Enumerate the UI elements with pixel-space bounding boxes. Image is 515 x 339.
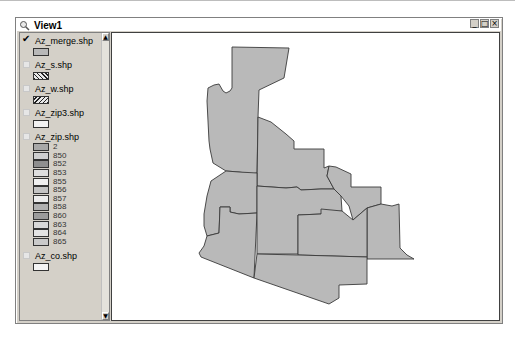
legend-class: 860: [33, 212, 102, 221]
theme-az-merge[interactable]: Az_merge.shp: [20, 35, 102, 56]
theme-name: Az_s.shp: [35, 60, 72, 70]
legend-scrollbar[interactable]: ▲ ▼: [101, 33, 109, 320]
class-swatch: [33, 169, 49, 177]
table-of-contents: Az_merge.shp Az_s.shp Az_w.shp: [19, 32, 110, 321]
arizona-county-map[interactable]: [112, 33, 501, 322]
minimize-button[interactable]: _: [470, 19, 479, 28]
class-swatch: [33, 178, 49, 186]
scroll-down-button[interactable]: ▼: [102, 312, 109, 320]
view-window: View1 _ □ × Az_merge.shp Az_s.shp: [15, 17, 503, 324]
class-swatch: [33, 152, 49, 160]
legend-swatch-hatch: [33, 96, 49, 104]
page-top-rule: [0, 0, 515, 1]
class-swatch: [33, 238, 49, 246]
county-coconino: [257, 117, 334, 190]
class-label: 865: [53, 238, 66, 246]
legend-class: 857: [33, 195, 102, 204]
theme-az-co[interactable]: Az_co.shp: [20, 250, 102, 271]
theme-az-w[interactable]: Az_w.shp: [20, 83, 102, 104]
legend-swatch-solid: [33, 263, 49, 271]
legend-list: Az_merge.shp Az_s.shp Az_w.shp: [20, 33, 102, 274]
class-swatch: [33, 229, 49, 237]
title-bar[interactable]: View1 _ □ ×: [17, 19, 501, 31]
maximize-button[interactable]: □: [480, 19, 489, 28]
class-swatch: [33, 186, 49, 194]
class-swatch: [33, 212, 49, 220]
legend-class: 864: [33, 229, 102, 238]
legend-class: 865: [33, 238, 102, 247]
theme-name: Az_zip.shp: [35, 132, 79, 142]
legend-class: 863: [33, 220, 102, 229]
window-title: View1: [34, 20, 62, 31]
legend-swatch-solid: [33, 120, 49, 128]
theme-az-zip3[interactable]: Az_zip3.shp: [20, 107, 102, 128]
theme-name: Az_zip3.shp: [35, 108, 84, 118]
theme-visibility-checkbox[interactable]: [23, 109, 30, 116]
class-label: 860: [53, 212, 66, 220]
theme-name: Az_co.shp: [35, 251, 77, 261]
map-display[interactable]: [111, 32, 500, 321]
theme-visibility-checkbox[interactable]: [23, 61, 30, 68]
legend-class: 856: [33, 186, 102, 195]
legend-swatch-solid: [33, 48, 49, 56]
class-swatch: [33, 203, 49, 211]
legend-class-list: 2 850 852 853 855 856 857 858 860 863 86…: [20, 143, 102, 246]
legend-class: 853: [33, 169, 102, 178]
theme-az-zip[interactable]: Az_zip.shp 2 850 852 853 855 856 857 858…: [20, 131, 102, 246]
window-controls: _ □ ×: [470, 19, 499, 28]
theme-name: Az_w.shp: [35, 84, 74, 94]
theme-az-s[interactable]: Az_s.shp: [20, 59, 102, 80]
class-swatch: [33, 195, 49, 203]
legend-class: 850: [33, 152, 102, 161]
view-magnifier-icon: [19, 20, 30, 31]
class-label: 853: [53, 169, 66, 177]
county-greenlee: [367, 204, 414, 259]
theme-visibility-checkbox[interactable]: [23, 133, 30, 140]
theme-visibility-checkbox[interactable]: [23, 252, 30, 259]
class-swatch: [33, 143, 49, 151]
legend-swatch-hatch: [33, 72, 49, 80]
close-button[interactable]: ×: [490, 19, 499, 28]
scroll-up-button[interactable]: ▲: [102, 33, 109, 41]
county-pima: [254, 254, 367, 304]
class-swatch: [33, 221, 49, 229]
theme-visibility-checkbox[interactable]: [23, 85, 30, 92]
legend-class: 852: [33, 160, 102, 169]
legend-class: 2: [33, 143, 102, 152]
theme-name: Az_merge.shp: [35, 36, 93, 46]
class-swatch: [33, 160, 49, 168]
theme-visibility-checkbox[interactable]: [23, 37, 30, 44]
legend-class: 858: [33, 203, 102, 212]
legend-class: 855: [33, 177, 102, 186]
